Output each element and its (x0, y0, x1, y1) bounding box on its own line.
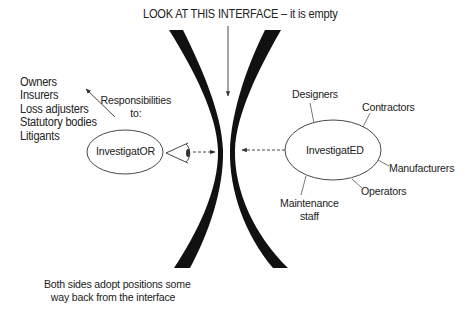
connector-designers (310, 103, 314, 123)
list-item-owners: Owners (20, 76, 97, 89)
footer-line2: way back from the interface (44, 291, 182, 304)
stakeholder-operators: Operators (361, 185, 406, 198)
connector-manufacturers (378, 160, 389, 166)
investigator-label: InvestigatOR (96, 145, 155, 158)
maintenance-line2: staff (279, 210, 340, 223)
stakeholder-manufacturers: Manufacturers (389, 162, 454, 175)
list-item-loss-adjusters: Loss adjusters (20, 103, 97, 116)
list-item-statutory-bodies: Statutory bodies (20, 116, 97, 129)
investigator-interface-diagram: LOOK AT THIS INTERFACE – it is empty Own… (0, 0, 466, 319)
responsibilities-label-line1: Responsibilities (99, 94, 173, 107)
connector-contractors (363, 113, 370, 127)
interface-band-right (230, 30, 288, 268)
stakeholder-contractors: Contractors (362, 101, 415, 114)
diagram-graphics (0, 0, 466, 319)
footer-caption: Both sides adopt positions some way back… (44, 278, 182, 304)
maintenance-line1: Maintenance (279, 197, 340, 210)
responsibilities-list: Owners Insurers Loss adjusters Statutory… (20, 76, 97, 143)
list-item-insurers: Insurers (20, 89, 97, 102)
interface-band-left (169, 30, 223, 268)
eye-icon (166, 143, 190, 163)
stakeholder-designers: Designers (292, 88, 338, 101)
responsibilities-label-line2: to: (99, 107, 173, 120)
footer-line1: Both sides adopt positions some (44, 278, 182, 291)
diagram-title: LOOK AT THIS INTERFACE – it is empty (143, 8, 338, 21)
list-item-litigants: Litigants (20, 130, 97, 143)
responsibilities-label: Responsibilities to: (99, 94, 173, 120)
investigated-label: InvestigatED (306, 144, 364, 157)
connector-maintenance (301, 176, 306, 195)
stakeholder-maintenance-staff: Maintenance staff (279, 197, 340, 223)
